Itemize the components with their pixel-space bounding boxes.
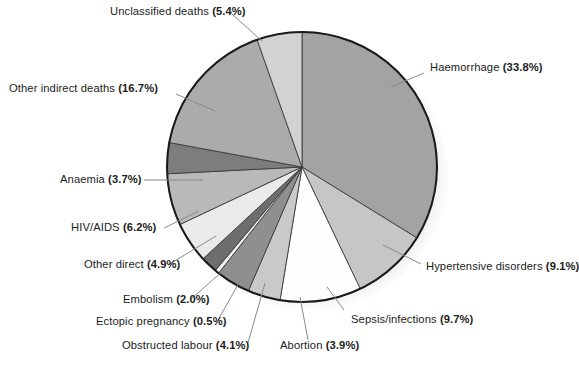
label-anaemia-name: Anaemia bbox=[60, 173, 105, 185]
label-sepsis-infections-name: Sepsis/infections bbox=[351, 313, 437, 325]
label-other-direct-pct: (4.9%) bbox=[147, 258, 181, 270]
label-sepsis-infections-pct: (9.7%) bbox=[440, 313, 474, 325]
label-sepsis-infections: Sepsis/infections (9.7%) bbox=[351, 313, 473, 326]
label-obstructed-labour-name: Obstructed labour bbox=[122, 339, 213, 351]
label-hiv-aids-name: HIV/AIDS bbox=[71, 221, 120, 233]
label-haemorrhage-name: Haemorrhage bbox=[430, 61, 500, 73]
label-hypertensive-disorders: Hypertensive disorders (9.1%) bbox=[426, 260, 579, 273]
label-hypertensive-disorders-name: Hypertensive disorders bbox=[426, 260, 543, 272]
label-other-indirect-deaths-pct: (16.7%) bbox=[118, 82, 158, 94]
label-hiv-aids: HIV/AIDS (6.2%) bbox=[71, 221, 156, 234]
label-haemorrhage: Haemorrhage (33.8%) bbox=[430, 61, 543, 74]
label-anaemia-pct: (3.7%) bbox=[108, 173, 142, 185]
leader-line-unclassified-deaths bbox=[232, 14, 262, 41]
pie-slice-group bbox=[167, 32, 437, 302]
label-embolism: Embolism (2.0%) bbox=[123, 293, 210, 306]
label-abortion-name: Abortion bbox=[280, 339, 322, 351]
label-unclassified-deaths: Unclassified deaths (5.4%) bbox=[110, 5, 246, 18]
label-other-indirect-deaths: Other indirect deaths (16.7%) bbox=[9, 82, 158, 95]
label-hiv-aids-pct: (6.2%) bbox=[123, 221, 157, 233]
label-other-direct-name: Other direct bbox=[84, 258, 144, 270]
label-ectopic-pregnancy-pct: (0.5%) bbox=[193, 315, 227, 327]
label-obstructed-labour: Obstructed labour (4.1%) bbox=[122, 339, 249, 352]
label-obstructed-labour-pct: (4.1%) bbox=[216, 339, 250, 351]
label-haemorrhage-pct: (33.8%) bbox=[503, 61, 543, 73]
label-ectopic-pregnancy-name: Ectopic pregnancy bbox=[96, 315, 190, 327]
label-abortion: Abortion (3.9%) bbox=[280, 339, 359, 352]
label-unclassified-deaths-name: Unclassified deaths bbox=[110, 5, 209, 17]
label-abortion-pct: (3.9%) bbox=[326, 339, 360, 351]
label-hypertensive-disorders-pct: (9.1%) bbox=[546, 260, 579, 272]
label-embolism-pct: (2.0%) bbox=[176, 293, 210, 305]
label-anaemia: Anaemia (3.7%) bbox=[60, 173, 142, 186]
label-unclassified-deaths-pct: (5.4%) bbox=[212, 5, 246, 17]
label-other-indirect-deaths-name: Other indirect deaths bbox=[9, 82, 115, 94]
label-other-direct: Other direct (4.9%) bbox=[84, 258, 180, 271]
label-embolism-name: Embolism bbox=[123, 293, 173, 305]
label-ectopic-pregnancy: Ectopic pregnancy (0.5%) bbox=[96, 315, 227, 328]
